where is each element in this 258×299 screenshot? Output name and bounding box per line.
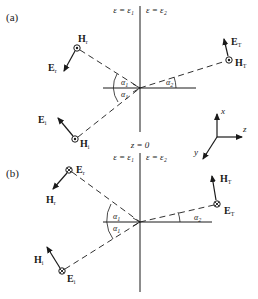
reflected-field-into-plane-icon-b xyxy=(66,167,72,173)
incident-dot-label: Hi xyxy=(80,138,90,150)
alpha1-incident-label: α1 xyxy=(121,90,128,100)
incident-ray xyxy=(78,88,140,137)
incident-arrow-label-b: Hi xyxy=(34,254,44,266)
transmitted-field-into-plane-icon-b xyxy=(214,201,220,207)
transmitted-field-out-of-plane-icon xyxy=(226,57,232,63)
z-axis-label: z xyxy=(242,124,247,134)
transmitted-field-arrow-b xyxy=(212,176,216,200)
reflected-arrow-label: Er xyxy=(48,62,57,74)
incident-field-into-plane-icon-b xyxy=(59,268,65,274)
incident-arrow-label: Ei xyxy=(38,114,47,126)
reflected-arrow-label-b: Hr xyxy=(46,194,56,206)
reflected-ray xyxy=(80,50,140,88)
medium-1-label-b: ε = ε₁ xyxy=(113,152,134,162)
coordinate-axes: x z y xyxy=(193,106,247,159)
panel-b: (b) ε = ε₁ ε = ε₂ α1 α1 α2 Er Hr Ei Hi xyxy=(6,152,235,292)
alpha1-reflected-label-b: α1 xyxy=(113,212,120,222)
reflected-ray-b xyxy=(72,172,140,222)
alpha2-label-b: α2 xyxy=(194,213,201,223)
panel-b-label: (b) xyxy=(6,167,19,180)
incident-ray-b xyxy=(65,222,140,269)
panel-a-label: (a) xyxy=(6,11,19,24)
transmitted-arrow-label-b: HT xyxy=(220,173,232,185)
reflection-refraction-diagram: (a) ε = ε₁ ε = ε₂ α1 α1 α2 Hr Er xyxy=(0,0,258,299)
transmitted-arrow-label: ET xyxy=(231,36,242,48)
transmitted-dot-label-b: ET xyxy=(224,205,235,217)
transmitted-field-arrow xyxy=(224,39,228,56)
alpha2-arc xyxy=(174,77,176,88)
y-axis-label: y xyxy=(193,147,198,157)
y-axis-arrow xyxy=(203,137,217,159)
transmitted-dot-label: HT xyxy=(235,57,247,69)
alpha2-label: α2 xyxy=(166,78,173,88)
transmitted-ray xyxy=(140,61,226,88)
panel-a: (a) ε = ε₁ ε = ε₂ α1 α1 α2 Hr Er xyxy=(6,5,247,150)
incident-field-out-of-plane-icon xyxy=(72,136,78,142)
reflected-field-arrow xyxy=(64,51,75,71)
interface-position-label: z = 0 xyxy=(130,140,150,150)
medium-2-label: ε = ε₂ xyxy=(146,5,167,15)
reflected-dot-label: Hr xyxy=(78,33,88,45)
reflected-field-out-of-plane-icon xyxy=(74,45,80,51)
incident-dot-label-b: Ei xyxy=(67,273,76,285)
reflected-dot-label-b: Er xyxy=(76,164,85,176)
reflected-field-arrow-b xyxy=(53,173,67,189)
medium-2-label-b: ε = ε₂ xyxy=(146,152,167,162)
incident-field-arrow-b xyxy=(47,247,60,268)
transmitted-ray-b xyxy=(140,205,214,222)
alpha1-incident-label-b: α1 xyxy=(113,224,120,234)
x-axis-label: x xyxy=(220,106,225,116)
incident-field-arrow xyxy=(58,118,73,136)
alpha2-arc-b xyxy=(178,212,180,222)
medium-1-label: ε = ε₁ xyxy=(113,5,134,15)
